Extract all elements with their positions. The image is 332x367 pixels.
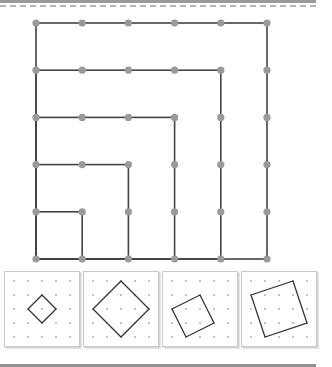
peg xyxy=(134,308,136,310)
geoboard-panel-4 xyxy=(241,271,317,347)
peg xyxy=(41,280,43,282)
peg xyxy=(199,322,201,324)
tilted-square-3 xyxy=(172,295,214,337)
peg xyxy=(213,280,215,282)
peg xyxy=(292,294,294,296)
peg xyxy=(69,308,71,310)
peg xyxy=(217,19,224,26)
peg xyxy=(171,114,178,121)
peg xyxy=(13,280,15,282)
peg xyxy=(79,208,86,215)
peg xyxy=(250,280,252,282)
peg xyxy=(32,161,39,168)
peg xyxy=(185,308,187,310)
peg xyxy=(264,280,266,282)
peg xyxy=(41,336,43,338)
square-5 xyxy=(36,23,267,259)
peg xyxy=(199,280,201,282)
peg xyxy=(263,255,270,262)
peg xyxy=(79,255,86,262)
nested-squares xyxy=(36,23,267,259)
peg xyxy=(13,322,15,324)
peg xyxy=(27,336,29,338)
peg xyxy=(32,19,39,26)
peg xyxy=(306,294,308,296)
peg xyxy=(27,294,29,296)
peg xyxy=(278,322,280,324)
peg xyxy=(55,336,57,338)
peg xyxy=(227,336,229,338)
peg xyxy=(263,208,270,215)
peg xyxy=(32,114,39,121)
peg xyxy=(292,336,294,338)
peg xyxy=(264,322,266,324)
peg xyxy=(92,336,94,338)
peg xyxy=(306,280,308,282)
peg xyxy=(217,114,224,121)
peg xyxy=(134,336,136,338)
peg xyxy=(148,294,150,296)
square-3 xyxy=(36,117,175,259)
peg xyxy=(79,114,86,121)
peg xyxy=(171,280,173,282)
peg xyxy=(13,308,15,310)
peg xyxy=(55,280,57,282)
peg xyxy=(106,308,108,310)
peg xyxy=(13,336,15,338)
peg xyxy=(92,294,94,296)
peg xyxy=(106,280,108,282)
peg xyxy=(55,322,57,324)
peg xyxy=(41,308,43,310)
peg xyxy=(120,294,122,296)
peg xyxy=(79,19,86,26)
peg xyxy=(125,255,132,262)
peg xyxy=(92,280,94,282)
peg xyxy=(79,67,86,74)
peg xyxy=(69,280,71,282)
peg xyxy=(217,255,224,262)
peg xyxy=(125,19,132,26)
peg xyxy=(278,336,280,338)
peg xyxy=(120,308,122,310)
peg xyxy=(171,208,178,215)
peg xyxy=(125,67,132,74)
peg xyxy=(125,161,132,168)
peg xyxy=(199,308,201,310)
peg xyxy=(106,336,108,338)
peg xyxy=(185,294,187,296)
peg xyxy=(171,336,173,338)
geoboard-panel-3 xyxy=(162,271,238,347)
peg xyxy=(227,308,229,310)
peg xyxy=(292,308,294,310)
peg xyxy=(148,336,150,338)
peg xyxy=(69,322,71,324)
peg xyxy=(185,322,187,324)
peg xyxy=(263,19,270,26)
peg xyxy=(125,114,132,121)
peg xyxy=(32,208,39,215)
square-1 xyxy=(36,212,82,259)
peg xyxy=(69,336,71,338)
peg xyxy=(250,336,252,338)
peg xyxy=(213,308,215,310)
peg xyxy=(32,67,39,74)
peg xyxy=(278,308,280,310)
peg xyxy=(134,280,136,282)
peg xyxy=(148,280,150,282)
peg xyxy=(27,322,29,324)
peg xyxy=(278,280,280,282)
peg xyxy=(148,322,150,324)
peg xyxy=(263,67,270,74)
peg xyxy=(125,208,132,215)
peg xyxy=(227,294,229,296)
peg xyxy=(171,67,178,74)
peg xyxy=(171,19,178,26)
peg xyxy=(278,294,280,296)
peg xyxy=(306,336,308,338)
peg xyxy=(69,294,71,296)
peg xyxy=(92,322,94,324)
peg xyxy=(250,322,252,324)
peg xyxy=(227,322,229,324)
peg xyxy=(217,161,224,168)
geoboard-panel-1 xyxy=(4,271,80,347)
